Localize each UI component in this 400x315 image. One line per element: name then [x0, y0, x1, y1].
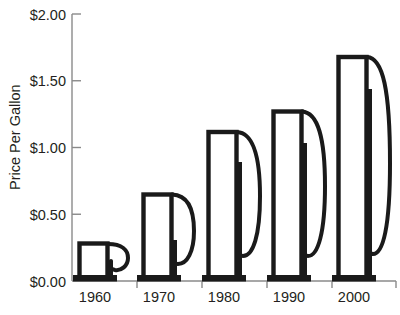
x-category-label-1960: 1960 [79, 289, 111, 305]
pump-base-plate [202, 275, 246, 282]
pump-body-rect [274, 112, 302, 279]
pump-body-rect [339, 57, 367, 279]
ytick-1-5: $1.50 [30, 73, 66, 89]
pump-nozzle-rect [365, 89, 372, 278]
x-category-label-1990: 1990 [273, 289, 305, 305]
chart-canvas: $2.00 $1.50 $1.00 $0.50 $0.00 Price Per … [0, 0, 400, 315]
pump-body-rect [80, 244, 108, 279]
bar-group-1990: 1990 [267, 112, 325, 306]
ytick-0: $0.00 [30, 274, 66, 290]
pump-base-plate [267, 275, 311, 282]
pump-nozzle-rect [235, 162, 242, 278]
gas-pump-icon [73, 244, 128, 282]
gas-pump-icon [137, 195, 194, 282]
pump-body-rect [209, 132, 237, 279]
ytick-2: $2.00 [30, 7, 66, 23]
ytick-0-5: $0.50 [30, 207, 66, 223]
gas-price-bar-chart: $2.00 $1.50 $1.00 $0.50 $0.00 Price Per … [0, 0, 400, 315]
pump-nozzle-rect [170, 240, 177, 278]
x-category-label-1980: 1980 [208, 289, 240, 305]
pump-nozzle-rect [300, 143, 307, 278]
pump-base-plate [137, 275, 181, 282]
pump-base-plate [73, 275, 117, 282]
bar-group-1980: 1980 [202, 132, 260, 305]
y-axis-title: Price Per Gallon [7, 84, 23, 190]
gas-pump-icon [202, 132, 260, 282]
x-category-label-2000: 2000 [338, 289, 370, 305]
x-category-label-1970: 1970 [143, 289, 175, 305]
bar-group-1960: 1960 [73, 244, 128, 306]
bar-group-1970: 1970 [137, 195, 194, 306]
pump-body-rect [144, 195, 172, 279]
gas-pump-icon [267, 112, 325, 282]
gas-pump-icon [332, 57, 390, 282]
bar-group-2000: 2000 [332, 57, 390, 305]
pump-base-plate [332, 275, 376, 282]
ytick-1: $1.00 [30, 140, 66, 156]
